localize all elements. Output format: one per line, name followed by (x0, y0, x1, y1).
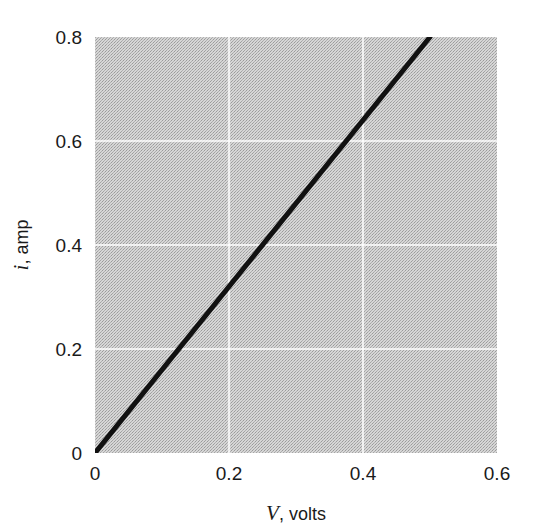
y-axis-ticks: 00.20.40.60.8 (56, 27, 83, 464)
y-tick-label: 0.2 (56, 339, 82, 360)
x-tick-label: 0.4 (350, 463, 377, 484)
x-tick-label: 0.6 (484, 463, 510, 484)
x-tick-label: 0.2 (216, 463, 242, 484)
y-tick-label: 0.8 (56, 27, 82, 48)
x-axis-label: V, volts (266, 501, 326, 525)
x-tick-label: 0 (90, 463, 101, 484)
y-tick-label: 0.4 (56, 235, 83, 256)
y-tick-label: 0 (71, 443, 82, 464)
y-tick-label: 0.6 (56, 131, 82, 152)
x-axis-ticks: 00.20.40.6 (90, 463, 511, 484)
y-axis-label: i, amp (9, 220, 33, 271)
chart: 00.20.40.60.8 00.20.40.6 V, volts i, amp (0, 0, 538, 530)
